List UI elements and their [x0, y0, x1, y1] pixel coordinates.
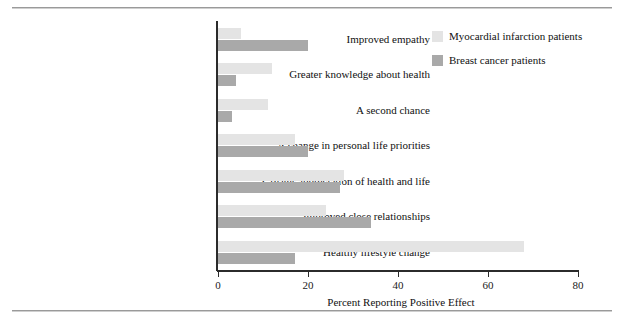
bar: [218, 111, 232, 122]
x-axis-title: Percent Reporting Positive Effect: [0, 296, 624, 308]
bar: [218, 205, 326, 216]
legend-swatch-myocardial-infarction-patients: [432, 31, 443, 42]
chart-figure: Improved empathyGreater knowledge about …: [0, 0, 624, 328]
legend-item-breast-cancer-patients: Breast cancer patients: [432, 54, 546, 66]
bar: [218, 241, 524, 252]
category-label: Improved empathy: [347, 33, 430, 45]
x-axis-tick-label: 60: [483, 279, 494, 291]
x-axis-tick-label: 0: [215, 279, 221, 291]
x-axis-tick: [218, 272, 219, 277]
bar: [218, 170, 344, 181]
category-label: A second chance: [356, 104, 430, 116]
legend-label-breast-cancer-patients: Breast cancer patients: [449, 54, 546, 66]
x-axis-tick-label: 40: [393, 279, 404, 291]
legend-label-myocardial-infarction-patients: Myocardial infarction patients: [449, 30, 582, 42]
legend-item-myocardial-infarction-patients: Myocardial infarction patients: [432, 30, 582, 42]
bar: [218, 28, 241, 39]
bar: [218, 253, 295, 264]
x-axis-title-text: Percent Reporting Positive Effect: [149, 296, 474, 308]
x-axis-tick: [578, 272, 579, 277]
bar: [218, 40, 308, 51]
x-axis-tick-label: 80: [573, 279, 584, 291]
bar: [218, 182, 340, 193]
top-divider-rule: [12, 7, 612, 8]
category-label: Greater knowledge about health: [289, 68, 430, 80]
bar: [218, 146, 308, 157]
bottom-divider-rule: [12, 310, 612, 311]
x-axis-tick-label: 20: [303, 279, 314, 291]
bar: [218, 134, 295, 145]
bar: [218, 217, 371, 228]
bar: [218, 99, 268, 110]
bar: [218, 63, 272, 74]
legend-swatch-breast-cancer-patients: [432, 55, 443, 66]
x-axis-tick: [308, 272, 309, 277]
x-axis-tick: [488, 272, 489, 277]
bar: [218, 75, 236, 86]
x-axis-tick: [398, 272, 399, 277]
